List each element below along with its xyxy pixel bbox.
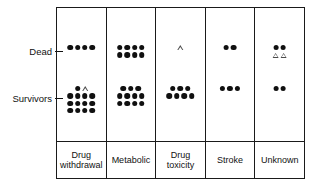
filled-circle-marker: [124, 100, 131, 107]
dot-row: [272, 44, 287, 51]
filled-circle-marker: [272, 44, 279, 51]
x-axis-label-text: Unknown: [261, 155, 299, 166]
filled-circle-marker: [138, 51, 145, 58]
filled-circle-marker: [74, 107, 81, 114]
filled-circle-marker: [280, 44, 287, 51]
dot-cluster-survivors-drug-withdrawal: [67, 85, 97, 115]
filled-circle-marker: [219, 85, 226, 92]
filled-circle-marker: [81, 100, 88, 107]
filled-circle-marker: [67, 107, 74, 114]
x-axis-label-row: Drug withdrawal Metabolic Drug toxicity …: [57, 141, 304, 178]
dot-row: [67, 44, 97, 51]
dot-row: [120, 85, 142, 92]
filled-circle-marker: [124, 44, 131, 51]
dot-row: [177, 44, 184, 51]
filled-circle-marker: [177, 85, 184, 92]
filled-circle-marker: [124, 51, 131, 58]
filled-circle-marker: [74, 100, 81, 107]
filled-circle-marker: [280, 85, 287, 92]
filled-circle-marker: [184, 85, 191, 92]
dot-row: [223, 44, 238, 51]
open-triangle-marker: [177, 44, 184, 51]
filled-circle-marker: [138, 100, 145, 107]
filled-circle-marker: [67, 92, 74, 99]
panel-metabolic: [107, 8, 157, 141]
dot-cluster-dead-unknown: [272, 44, 287, 59]
dot-row: [116, 100, 146, 107]
filled-circle-marker: [131, 44, 138, 51]
dot-row: [67, 107, 97, 114]
dot-row: [74, 85, 89, 92]
dot-row: [272, 85, 287, 92]
filled-circle-marker: [116, 100, 123, 107]
x-axis-label-text: Drug withdrawal: [60, 150, 103, 171]
dot-cluster-dead-drug-toxicity: [177, 44, 184, 51]
x-axis-label-stroke: Stroke: [206, 142, 256, 178]
filled-circle-marker: [127, 85, 134, 92]
dot-cluster-survivors-drug-toxicity: [166, 85, 196, 100]
dot-cluster-survivors-unknown: [272, 85, 287, 92]
filled-circle-marker: [89, 44, 96, 51]
filled-circle-marker: [116, 92, 123, 99]
filled-circle-marker: [272, 85, 279, 92]
filled-circle-marker: [74, 44, 81, 51]
filled-circle-marker: [74, 85, 81, 92]
y-axis-labels: Dead Survivors: [0, 0, 52, 186]
dot-row: [219, 85, 241, 92]
x-axis-label-metabolic: Metabolic: [107, 142, 157, 178]
x-axis-label-drug-toxicity: Drug toxicity: [156, 142, 206, 178]
filled-circle-marker: [89, 107, 96, 114]
panel-area: [57, 8, 304, 141]
filled-circle-marker: [230, 44, 237, 51]
filled-circle-marker: [81, 44, 88, 51]
filled-circle-marker: [166, 92, 173, 99]
filled-circle-marker: [81, 92, 88, 99]
dot-row: [166, 92, 196, 99]
filled-circle-marker: [67, 100, 74, 107]
dot-cluster-survivors-metabolic: [116, 85, 146, 107]
filled-circle-marker: [169, 85, 176, 92]
dot-row: [67, 100, 97, 107]
dot-row: [272, 51, 287, 58]
dot-cluster-dead-drug-withdrawal: [67, 44, 97, 51]
filled-circle-marker: [124, 92, 131, 99]
filled-circle-marker: [226, 85, 233, 92]
filled-circle-marker: [116, 44, 123, 51]
panel-stroke: [206, 8, 256, 141]
filled-circle-marker: [116, 51, 123, 58]
filled-circle-marker: [89, 92, 96, 99]
x-axis-label-unknown: Unknown: [255, 142, 304, 178]
dot-row: [116, 44, 146, 51]
open-triangle-marker: [280, 51, 287, 58]
panel-unknown: [255, 8, 304, 141]
filled-circle-marker: [223, 44, 230, 51]
x-axis-label-drug-withdrawal: Drug withdrawal: [57, 142, 107, 178]
filled-circle-marker: [188, 92, 195, 99]
dot-row: [67, 92, 97, 99]
filled-circle-marker: [120, 85, 127, 92]
filled-circle-marker: [131, 100, 138, 107]
filled-circle-marker: [180, 92, 187, 99]
filled-circle-marker: [138, 92, 145, 99]
filled-circle-marker: [173, 92, 180, 99]
x-axis-label-text: Drug toxicity: [167, 150, 195, 171]
dot-row: [169, 85, 191, 92]
dot-cluster-dead-stroke: [223, 44, 238, 51]
x-axis-label-text: Stroke: [217, 155, 243, 166]
filled-circle-marker: [89, 100, 96, 107]
dot-row: [116, 51, 146, 58]
filled-circle-marker: [234, 85, 241, 92]
filled-circle-marker: [67, 44, 74, 51]
dot-cluster-dead-metabolic: [116, 44, 146, 59]
y-axis-label-survivors: Survivors: [12, 93, 52, 104]
filled-circle-marker: [74, 92, 81, 99]
filled-circle-marker: [131, 51, 138, 58]
open-triangle-marker: [81, 85, 88, 92]
filled-circle-marker: [138, 44, 145, 51]
filled-circle-marker: [131, 92, 138, 99]
y-axis-label-dead: Dead: [29, 46, 52, 57]
dot-cluster-survivors-stroke: [219, 85, 241, 92]
filled-circle-marker: [135, 85, 142, 92]
x-axis-label-text: Metabolic: [112, 155, 151, 166]
panel-drug-toxicity: [156, 8, 206, 141]
